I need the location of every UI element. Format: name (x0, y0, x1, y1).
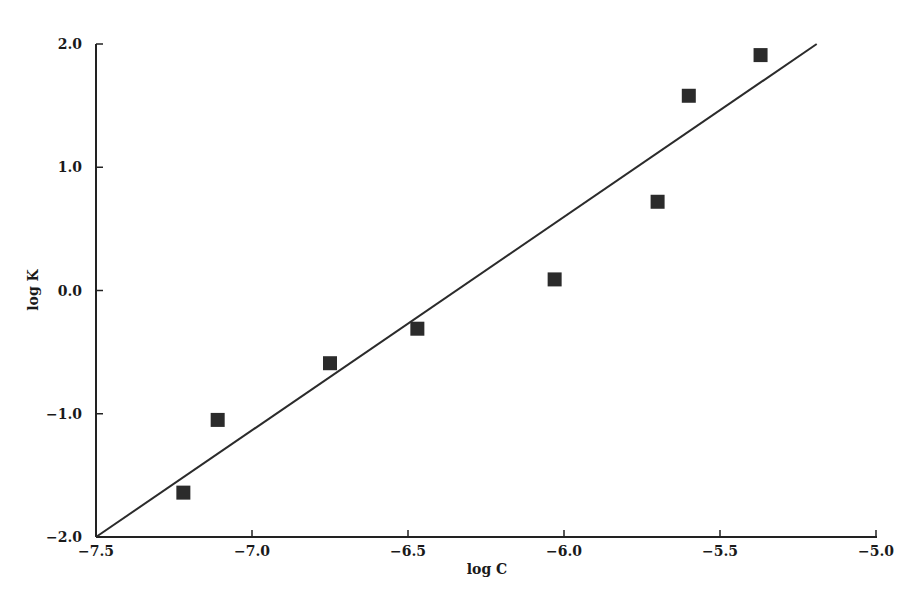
y-tick-label: −1.0 (46, 406, 82, 422)
data-point-square (548, 272, 562, 286)
x-tick-label: −7.0 (234, 543, 270, 559)
x-tick-label: −5.0 (858, 543, 894, 559)
data-point-square (211, 413, 225, 427)
plot-area: −7.5−7.0−6.5−6.0−5.5−5.0 2.01.00.0−1.0−2… (46, 36, 894, 559)
x-tick-label: −7.5 (78, 543, 114, 559)
data-point-square (754, 48, 768, 62)
regression-line (96, 44, 817, 537)
y-axis-label: log K (25, 268, 41, 310)
data-point-square (323, 356, 337, 370)
y-tick-label: −2.0 (46, 529, 82, 545)
chart: −7.5−7.0−6.5−6.0−5.5−5.0 2.01.00.0−1.0−2… (0, 0, 900, 597)
data-point-square (651, 195, 665, 209)
y-tick-label: 1.0 (58, 159, 83, 175)
x-tick-label: −5.5 (702, 543, 738, 559)
data-point-square (410, 322, 424, 336)
fit-line (96, 44, 817, 537)
data-point-square (682, 89, 696, 103)
data-point-square (176, 486, 190, 500)
y-ticks: 2.01.00.0−1.0−2.0 (46, 36, 103, 545)
x-ticks: −7.5−7.0−6.5−6.0−5.5−5.0 (78, 530, 894, 559)
x-tick-label: −6.5 (390, 543, 426, 559)
data-points (176, 48, 767, 500)
y-tick-label: 0.0 (58, 283, 83, 299)
x-tick-label: −6.0 (546, 543, 582, 559)
y-tick-label: 2.0 (58, 36, 83, 52)
x-axis-label: log C (467, 561, 507, 577)
